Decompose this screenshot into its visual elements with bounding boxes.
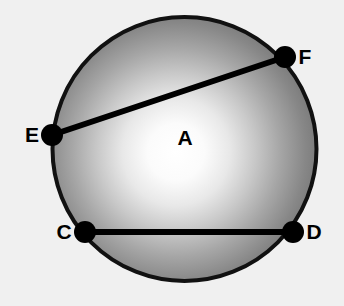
- circle-diagram-figure: A E F C D: [0, 0, 344, 306]
- vertex-dot-f: [274, 46, 296, 68]
- diagram-canvas: A E F C D: [0, 0, 344, 306]
- vertex-dot-d: [282, 221, 304, 243]
- vertex-label-f: F: [299, 45, 312, 68]
- vertex-dot-c: [74, 221, 96, 243]
- center-label-a: A: [177, 126, 192, 149]
- vertex-label-e: E: [25, 123, 39, 146]
- vertex-label-d: D: [306, 220, 321, 243]
- vertex-label-c: C: [56, 220, 71, 243]
- vertex-dot-e: [41, 124, 63, 146]
